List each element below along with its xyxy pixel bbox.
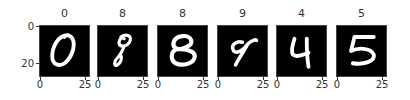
panel-title: 8 bbox=[97, 7, 148, 20]
xtick-label: 25 bbox=[316, 79, 329, 90]
digit-image bbox=[39, 25, 90, 77]
xtick-label: 0 bbox=[37, 79, 43, 90]
xtick-label: 0 bbox=[334, 79, 340, 90]
ytick-label: 0 bbox=[28, 21, 34, 32]
digit-panel-2: 8 0 25 bbox=[157, 25, 208, 77]
ytick-mark bbox=[36, 26, 39, 27]
digit-image bbox=[157, 25, 208, 77]
xtick-label: 25 bbox=[376, 79, 389, 90]
digit-image bbox=[336, 25, 387, 77]
panel-title: 0 bbox=[39, 7, 90, 20]
digit-panel-4: 4 0 25 bbox=[276, 25, 327, 77]
xtick-label: 0 bbox=[274, 79, 280, 90]
digit-zero-glyph bbox=[40, 26, 89, 76]
panel-title: 5 bbox=[336, 7, 387, 20]
digit-four-glyph bbox=[277, 26, 326, 76]
digit-panel-0: 0 0 20 0 25 bbox=[39, 25, 90, 77]
digit-panel-1: 8 0 25 bbox=[97, 25, 148, 77]
xtick-label: 25 bbox=[197, 79, 210, 90]
xtick-label: 25 bbox=[257, 79, 270, 90]
xtick-label: 0 bbox=[95, 79, 101, 90]
digit-image bbox=[217, 25, 268, 77]
digit-eight-glyph bbox=[98, 26, 147, 76]
digit-eight-glyph bbox=[158, 26, 207, 76]
xtick-label: 0 bbox=[215, 79, 221, 90]
panel-title: 4 bbox=[276, 7, 327, 20]
xtick-label: 0 bbox=[155, 79, 161, 90]
ytick-mark bbox=[36, 63, 39, 64]
xtick-label: 25 bbox=[137, 79, 150, 90]
digit-panel-5: 5 0 25 bbox=[336, 25, 387, 77]
digit-image bbox=[276, 25, 327, 77]
digit-five-glyph bbox=[337, 26, 386, 76]
ytick-label: 20 bbox=[21, 58, 34, 69]
digit-image bbox=[97, 25, 148, 77]
digit-nine-glyph bbox=[218, 26, 267, 76]
panel-title: 9 bbox=[217, 7, 268, 20]
xtick-label: 25 bbox=[79, 79, 92, 90]
digit-panel-3: 9 0 25 bbox=[217, 25, 268, 77]
panel-title: 8 bbox=[157, 7, 208, 20]
